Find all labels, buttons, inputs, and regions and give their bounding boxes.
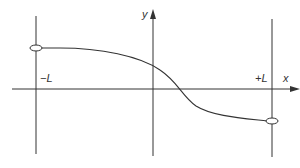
x-axis-label: x (282, 72, 289, 84)
right-boundary-label: +L (255, 72, 268, 84)
y-axis-arrow-icon (150, 9, 156, 19)
right-open-circle-icon (266, 118, 278, 124)
left-open-circle-icon (30, 45, 42, 51)
solution-curve (41, 48, 267, 121)
y-axis-label: y (141, 8, 149, 20)
left-boundary-label: −L (40, 72, 53, 84)
x-axis-arrow-icon (290, 86, 300, 92)
diagram: x y −L +L (0, 0, 300, 168)
